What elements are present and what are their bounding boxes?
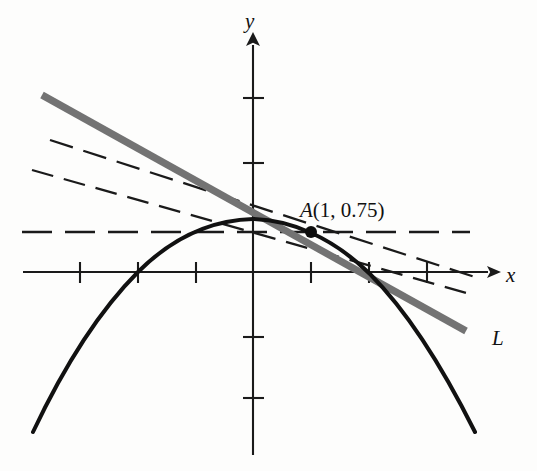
tangent-line-graph: x y L A(1, 0.75) [0,0,537,471]
tangent-line-label: L [491,326,504,350]
point-a-label-coords: (1, 0.75) [313,198,385,222]
point-a-label-name: A [298,198,313,222]
y-axis-label: y [243,9,255,33]
figure-canvas: x y L A(1, 0.75) [0,0,537,471]
axes-group [23,45,488,455]
x-axis-label: x [505,263,516,287]
point-a-label: A(1, 0.75) [298,198,385,222]
point-a-marker [305,226,317,238]
secant-line-steep [50,140,478,278]
